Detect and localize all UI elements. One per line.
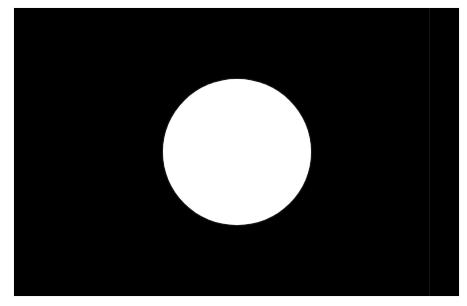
white-circle <box>163 79 311 225</box>
vertical-seam-line <box>429 8 430 296</box>
black-field <box>14 8 459 296</box>
